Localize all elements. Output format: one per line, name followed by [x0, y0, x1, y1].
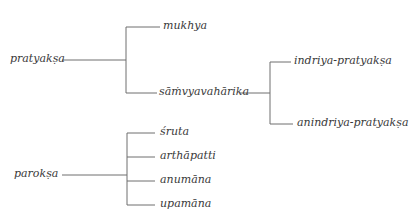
node-anumana: anumāna — [160, 174, 211, 186]
connector-lines — [0, 0, 411, 222]
node-mukhya: mukhya — [163, 20, 207, 32]
classification-tree-diagram: pratyakṣa mukhya sāṁvyavahārika indriya-… — [0, 0, 411, 222]
node-paroksa: parokṣa — [14, 168, 58, 180]
node-arthapatti: arthāpatti — [160, 150, 216, 162]
node-sruta: śruta — [160, 126, 189, 138]
node-indriya-pratyaksa: indriya-pratyakṣa — [294, 55, 392, 67]
node-samvyavaharika: sāṁvyavahārika — [159, 86, 249, 98]
node-upamana: upamāna — [160, 198, 211, 210]
node-anindriya-pratyaksa: anindriya-pratyakṣa — [297, 117, 408, 129]
node-pratyaksa: pratyakṣa — [10, 53, 65, 65]
